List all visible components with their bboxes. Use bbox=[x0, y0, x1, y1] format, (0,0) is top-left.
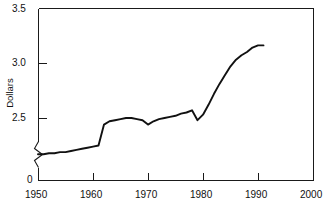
y-axis-title: Dollars bbox=[4, 78, 15, 108]
chart-container: Dollars 3.5 3.0 2.5 0 1950 1960 1970 198… bbox=[0, 0, 330, 213]
x-tick-label-1970: 1970 bbox=[135, 190, 157, 200]
x-tick-label-2000: 2000 bbox=[300, 190, 322, 200]
chart-plot-area: Dollars bbox=[0, 0, 330, 213]
y-tick-label-3-0: 3.0 bbox=[12, 58, 26, 68]
series-dollars-line bbox=[38, 45, 264, 154]
x-tick-label-1990: 1990 bbox=[245, 190, 267, 200]
y-tick-label-2-5: 2.5 bbox=[12, 113, 26, 123]
x-tick-label-1950: 1950 bbox=[25, 190, 47, 200]
x-tick-label-1980: 1980 bbox=[190, 190, 212, 200]
y-tick-label-3-5: 3.5 bbox=[12, 4, 26, 14]
x-tick-label-1960: 1960 bbox=[80, 190, 102, 200]
y-tick-label-0: 0 bbox=[27, 175, 33, 185]
